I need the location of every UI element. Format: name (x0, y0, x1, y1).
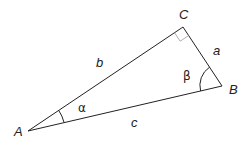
right-triangle-diagram: C B A a b c α β (0, 0, 249, 141)
side-label-b: b (96, 55, 103, 70)
vertex-label-c: C (179, 7, 189, 22)
right-angle-marker (175, 33, 189, 42)
vertex-label-b: B (229, 82, 238, 97)
angle-label-beta: β (183, 69, 191, 83)
vertex-label-a: A (13, 124, 23, 139)
angle-beta-arc (200, 67, 210, 91)
side-label-c: c (131, 115, 138, 130)
angle-alpha-arc (59, 110, 64, 122)
triangle (28, 27, 222, 131)
side-label-a: a (213, 43, 220, 58)
angle-label-alpha: α (78, 101, 86, 115)
